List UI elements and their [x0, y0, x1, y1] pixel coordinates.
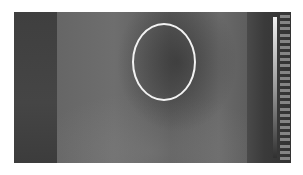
scale-tick-label — [280, 52, 290, 55]
scale-tick-label — [280, 27, 290, 30]
scale-tick-label — [280, 126, 290, 129]
scale-tick-label — [280, 77, 290, 80]
scale-tick-label — [280, 95, 290, 98]
scale-tick-label — [280, 58, 290, 61]
scale-tick-label — [280, 114, 290, 117]
scale-tick-label — [280, 157, 290, 160]
dark-left-region — [14, 12, 57, 163]
thermal-image — [14, 12, 291, 163]
scale-tick-label — [280, 46, 290, 49]
scale-tick-label — [280, 108, 290, 111]
intensity-scale-bar — [273, 17, 277, 158]
scale-tick-label — [280, 34, 290, 37]
scale-tick-label — [280, 15, 290, 18]
scale-tick-label — [280, 145, 290, 148]
scale-tick-label — [280, 120, 290, 123]
scale-tick-label — [280, 151, 290, 154]
scale-tick-label — [280, 40, 290, 43]
scale-tick-label — [280, 138, 290, 141]
scale-tick-label — [280, 71, 290, 74]
scale-tick-label — [280, 101, 290, 104]
scale-tick-label — [280, 83, 290, 86]
roi-ellipse — [132, 23, 196, 101]
scale-tick-labels — [280, 15, 290, 160]
scale-tick-label — [280, 132, 290, 135]
scale-tick-label — [280, 21, 290, 24]
scale-tick-label — [280, 89, 290, 92]
scale-tick-label — [280, 64, 290, 67]
